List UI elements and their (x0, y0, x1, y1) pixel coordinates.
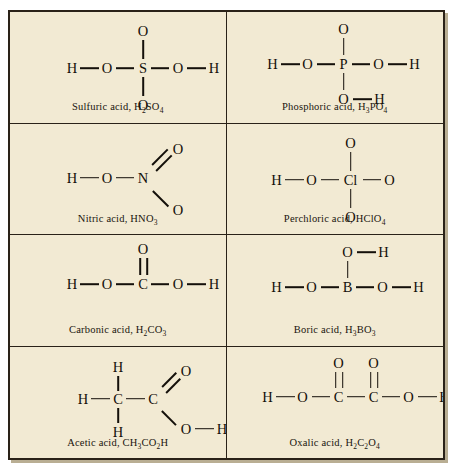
bond-o-c (116, 283, 134, 285)
caption-sulfuric-acid: Sulfuric acid, H2SO4 (72, 101, 164, 122)
bond-p-o (352, 63, 370, 65)
bond-h-c-left (91, 398, 110, 400)
cell-nitric-acid: H O N O O Nitric acid, HNO3 (10, 124, 227, 236)
atom-h-right: H (409, 57, 419, 72)
bond-o-h-right (388, 63, 407, 65)
bond-c-o (151, 283, 169, 285)
bond-h-o (285, 286, 304, 288)
bond-b-o-up (347, 261, 349, 278)
caption-nitric-acid: Nitric acid, HNO3 (78, 213, 158, 234)
structure-carbonic-acid: H O C O H O (10, 235, 226, 324)
atom-o-top: O (138, 24, 148, 39)
bond-c1-c2 (347, 396, 365, 398)
atom-h-right: H (209, 61, 219, 76)
bond-p-o-up (343, 38, 345, 55)
structure-boric-acid: H O B O H O H (227, 235, 444, 324)
bond-h-o (276, 396, 295, 398)
bond-h-o (80, 67, 99, 69)
atom-h: H (267, 57, 277, 72)
bond-s-o-down (142, 77, 144, 96)
bond-s-o (151, 67, 169, 69)
atom-o-bottom: O (345, 209, 355, 224)
bond-o-h-top (357, 251, 376, 253)
cell-carbonic-acid: H O C O H O Carbonic acid, H2CO3 (10, 235, 227, 347)
atom-o-right: O (173, 277, 183, 292)
caption-perchloric-acid: Perchloric acid, HClO4 (284, 213, 386, 234)
structure-nitric-acid: H O N O O (10, 124, 226, 213)
bond-c2-o (382, 396, 400, 398)
atom-o-top: O (138, 242, 148, 257)
atom-o: O (102, 61, 112, 76)
bond-c2-o-double-a (370, 372, 372, 388)
bond-c1-o-double-b (342, 372, 344, 388)
atom-o-right: O (373, 57, 383, 72)
atom-h: H (271, 280, 281, 295)
atom-o-lower: O (173, 202, 183, 217)
atom-h-bottom: H (374, 92, 384, 107)
bond-s-o-up (142, 40, 144, 59)
atom-o-top: O (345, 135, 355, 150)
caption-phosphoric-acid: Phosphoric acid, H3PO4 (282, 101, 388, 122)
bond-n-o-single (152, 190, 169, 207)
bond-h-o (80, 283, 99, 285)
atom-n-center: N (138, 170, 148, 185)
atom-c-center: C (138, 277, 148, 292)
atom-h: H (271, 172, 281, 187)
atom-o-bottom: O (138, 98, 148, 113)
bond-o-h-right (418, 396, 437, 398)
atom-o: O (302, 57, 312, 72)
atom-o-bottom: O (338, 92, 348, 107)
atom-o-right: O (173, 61, 183, 76)
cell-oxalic-acid: H O C C O H O O (227, 347, 444, 459)
bond-o-h-bottom (353, 98, 372, 100)
cell-acetic-acid: H C H H C O O H A (10, 347, 227, 459)
bond-c1-o-double-a (335, 372, 337, 388)
bond-c-o-double-a (139, 258, 141, 275)
bond-h-o (80, 177, 99, 179)
atom-c-methyl: C (113, 391, 123, 406)
caption-oxalic-acid: Oxalic acid, H2C2O4 (289, 437, 380, 458)
bond-h-o (281, 63, 300, 65)
atom-o-top-right: O (368, 355, 378, 370)
atom-c1: C (334, 389, 344, 404)
acid-structures-figure: H O S O H O O Sulfuric acid, H2SO4 (8, 10, 445, 460)
atom-b-center: B (343, 280, 353, 295)
atom-o-right: O (403, 389, 413, 404)
atom-o-right: O (384, 172, 394, 187)
bond-c-o-single (161, 410, 176, 425)
caption-carbonic-acid: Carbonic acid, H2CO3 (69, 324, 167, 345)
atom-o: O (306, 280, 316, 295)
atom-o: O (306, 172, 316, 187)
atom-h-top: H (113, 359, 123, 374)
bond-o-cl (321, 179, 339, 181)
bond-h-o (285, 179, 304, 181)
caption-boric-acid: Boric acid, H3BO3 (294, 324, 376, 345)
structure-phosphoric-acid: H O P O H O O H (227, 12, 444, 101)
cell-boric-acid: H O B O H O H Boric acid, H3BO3 (227, 235, 444, 347)
bond-p-o-down (343, 73, 345, 90)
bond-n-o-double-a (151, 148, 168, 165)
cell-sulfuric-acid: H O S O H O O Sulfuric acid, H2SO4 (10, 12, 227, 124)
atom-h-right: H (439, 389, 443, 404)
atom-s-center: S (139, 61, 147, 76)
atom-o-right: O (377, 280, 387, 295)
atom-h-hydroxyl: H (217, 421, 227, 436)
atom-o-top-left: O (333, 355, 343, 370)
atom-o: O (102, 277, 112, 292)
bond-o-h-right (187, 283, 206, 285)
bond-o-p (317, 63, 335, 65)
bond-o-h-right (392, 286, 411, 288)
atom-h-top: H (378, 245, 388, 260)
atom-p-center: P (339, 57, 347, 72)
atom-c-carboxyl: C (148, 391, 158, 406)
bond-o-h-right (187, 67, 206, 69)
atom-h-bottom: H (113, 424, 123, 439)
structure-oxalic-acid: H O C C O H O O (227, 347, 444, 437)
atom-h: H (67, 170, 77, 185)
bond-o-c1 (312, 396, 330, 398)
bond-o-n (116, 177, 134, 179)
atom-o-carbonyl: O (181, 363, 191, 378)
structure-sulfuric-acid: H O S O H O O (10, 12, 226, 101)
atom-o-upper: O (173, 141, 183, 156)
structure-perchloric-acid: H O Cl O O O (227, 124, 444, 213)
